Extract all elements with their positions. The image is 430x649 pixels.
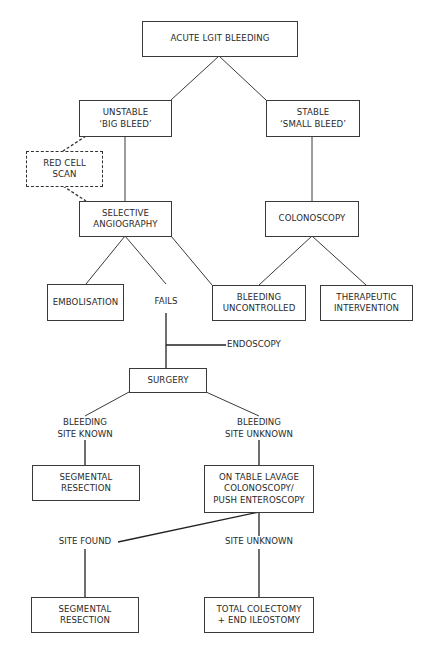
node-label: FAILS bbox=[155, 296, 178, 306]
node-colonoscopy: COLONOSCOPY bbox=[265, 201, 359, 237]
node-label: SITE FOUND bbox=[59, 536, 111, 546]
node-label: + END ILEOSTOMY bbox=[218, 615, 300, 627]
node-label: SITE UNKNOWN bbox=[225, 536, 293, 546]
node-label: ENDOSCOPY bbox=[227, 339, 281, 349]
node-segmental-resection-1: SEGMENTAL RESECTION bbox=[32, 465, 140, 501]
node-label: SEGMENTAL bbox=[59, 604, 112, 616]
node-on-table-lavage: ON TABLE LAVAGE COLONOSCOPY/ PUSH ENTERO… bbox=[204, 465, 314, 513]
node-stable-small-bleed: STABLE ‘SMALL BLEED’ bbox=[266, 100, 360, 137]
node-label: ANGIOGRAPHY bbox=[93, 219, 157, 231]
node-surgery: SURGERY bbox=[129, 368, 207, 393]
connector-lines bbox=[0, 0, 430, 649]
node-label: STABLE bbox=[297, 107, 330, 119]
node-label: ‘SMALL BLEED’ bbox=[280, 119, 346, 131]
label-bleeding-site-known: BLEEDING SITE KNOWN bbox=[45, 417, 125, 440]
node-red-cell-scan: RED CELL SCAN bbox=[26, 151, 103, 187]
node-segmental-resection-2: SEGMENTAL RESECTION bbox=[31, 597, 139, 633]
node-label: BLEEDING bbox=[237, 292, 282, 304]
node-label: BLEEDING bbox=[45, 417, 125, 429]
node-label: BLEEDING bbox=[214, 417, 304, 429]
label-site-unknown: SITE UNKNOWN bbox=[219, 536, 299, 548]
node-label: SEGMENTAL bbox=[60, 472, 113, 484]
node-label: SITE UNKNOWN bbox=[214, 429, 304, 441]
node-label: TOTAL COLECTOMY bbox=[216, 604, 301, 616]
node-label: RESECTION bbox=[60, 615, 110, 627]
node-embolisation: EMBOLISATION bbox=[47, 284, 124, 321]
node-total-colectomy: TOTAL COLECTOMY + END ILEOSTOMY bbox=[204, 597, 314, 633]
node-label: UNSTABLE bbox=[103, 107, 149, 119]
node-label: COLONOSCOPY/ bbox=[224, 483, 294, 495]
node-label: THERAPEUTIC bbox=[336, 292, 396, 304]
node-label: SELECTIVE bbox=[102, 208, 149, 220]
node-label: EMBOLISATION bbox=[53, 297, 119, 309]
node-therapeutic-intervention: THERAPEUTIC INTERVENTION bbox=[320, 285, 413, 321]
node-label: COLONOSCOPY bbox=[279, 213, 346, 225]
node-label: PUSH ENTEROSCOPY bbox=[213, 495, 304, 507]
node-label: RESECTION bbox=[61, 483, 111, 495]
node-label: INTERVENTION bbox=[334, 303, 399, 315]
label-fails: FAILS bbox=[146, 296, 186, 308]
node-label: UNCONTROLLED bbox=[223, 303, 296, 315]
label-endoscopy: ENDOSCOPY bbox=[227, 339, 281, 351]
node-label: ACUTE LGIT BLEEDING bbox=[170, 33, 269, 45]
node-unstable-big-bleed: UNSTABLE ‘BIG BLEED’ bbox=[79, 100, 172, 137]
node-acute-lgit-bleeding: ACUTE LGIT BLEEDING bbox=[142, 21, 298, 57]
node-label: SCAN bbox=[52, 169, 76, 181]
node-label: SITE KNOWN bbox=[45, 429, 125, 441]
node-label: ON TABLE LAVAGE bbox=[219, 472, 299, 484]
node-label: RED CELL bbox=[43, 158, 86, 170]
node-label: ‘BIG BLEED’ bbox=[99, 119, 152, 131]
node-bleeding-uncontrolled: BLEEDING UNCONTROLLED bbox=[212, 285, 306, 321]
label-bleeding-site-unknown: BLEEDING SITE UNKNOWN bbox=[214, 417, 304, 440]
node-selective-angiography: SELECTIVE ANGIOGRAPHY bbox=[79, 201, 172, 237]
node-label: SURGERY bbox=[147, 375, 188, 387]
label-site-found: SITE FOUND bbox=[54, 536, 116, 548]
